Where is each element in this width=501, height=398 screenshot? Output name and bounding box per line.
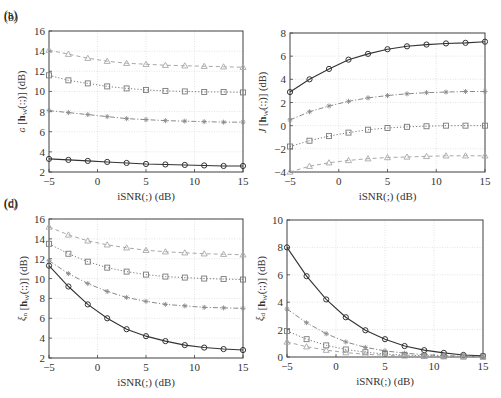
x-tick-label: 10 [429, 360, 441, 372]
star-marker [124, 295, 129, 300]
x-tick-label: 5 [385, 175, 391, 187]
y-tick-label: 6 [281, 50, 287, 62]
star-marker [444, 90, 449, 95]
y-tick-label: 6 [278, 269, 284, 281]
y-tick-label: 8 [281, 27, 287, 39]
y-tick-label: 4 [281, 73, 287, 85]
star-marker [66, 271, 71, 276]
x-tick-label: 15 [480, 175, 492, 187]
series-triangle-dashed [46, 47, 246, 69]
x-tick-label: 15 [238, 361, 250, 373]
square-marker [66, 251, 71, 256]
y-tick-label: 16 [34, 25, 46, 37]
y-tick-label: 0 [281, 120, 287, 132]
star-marker [105, 114, 110, 119]
figure: −5051015246810121416(a)iSNR(;) (dB)ɢ [hW… [0, 0, 501, 398]
y-tick-label: 14 [34, 233, 46, 245]
y-tick-label: 12 [34, 65, 45, 77]
y-tick-label: 8 [278, 241, 284, 253]
star-marker [47, 258, 52, 263]
star-marker [346, 99, 351, 104]
star-marker [304, 320, 309, 325]
star-marker [85, 281, 90, 286]
x-tick-label: 15 [238, 175, 250, 187]
star-marker [307, 109, 312, 114]
y-tick-label: 6 [40, 312, 46, 324]
x-tick-label: 0 [333, 360, 339, 372]
y-axis-label: ɢ [hW(:;)] (dB) [16, 70, 29, 132]
star-marker [221, 120, 226, 125]
x-tick-label: 10 [431, 175, 443, 187]
series-circle-solid [46, 156, 245, 168]
x-tick-label: 0 [336, 175, 342, 187]
y-tick-label: 10 [34, 273, 46, 285]
triangle-marker [182, 250, 188, 255]
y-tick-label: 6 [40, 126, 46, 138]
star-marker [163, 302, 168, 307]
x-tick-label: 0 [95, 361, 101, 373]
x-axis-label: iSNR(;) (dB) [117, 190, 175, 203]
y-tick-label: 8 [40, 106, 46, 118]
star-marker [202, 119, 207, 124]
y-tick-label: 2 [281, 97, 287, 109]
y-tick-label: 2 [40, 352, 46, 364]
panel-label: (b) [4, 10, 18, 24]
star-marker [182, 119, 187, 124]
x-axis-label: iSNR(;) (dB) [356, 375, 414, 388]
star-marker [385, 93, 390, 98]
y-axis-label: J [hW(:;)] (dB) [257, 71, 270, 133]
y-tick-label: −2 [274, 143, 286, 155]
x-axis-label: iSNR(;) (dB) [359, 190, 417, 203]
star-marker [124, 116, 129, 121]
star-marker [182, 303, 187, 308]
y-tick-label: 8 [40, 292, 46, 304]
star-marker [85, 112, 90, 117]
star-marker [241, 120, 246, 125]
x-axis-label: iSNR(;) (dB) [117, 376, 175, 389]
star-marker [363, 345, 368, 350]
y-axis-label: ξd [hW(:;)] (dB) [254, 256, 269, 321]
y-tick-label: 2 [278, 324, 284, 336]
y-tick-label: 2 [40, 166, 46, 178]
y-tick-label: 12 [34, 253, 45, 265]
star-marker [343, 339, 348, 344]
star-marker [47, 108, 52, 113]
y-tick-label: 0 [278, 351, 284, 363]
y-axis-label: ξn [hW(:;)] (dB) [16, 256, 31, 321]
star-marker [105, 289, 110, 294]
star-marker [288, 117, 293, 122]
y-tick-label: 4 [40, 146, 46, 158]
panel-label: (d) [4, 197, 18, 211]
star-marker [405, 91, 410, 96]
star-marker [66, 110, 71, 115]
star-marker [144, 117, 149, 122]
square-marker [85, 81, 90, 86]
y-tick-label: 4 [278, 296, 284, 308]
star-marker [366, 95, 371, 100]
star-marker [144, 299, 149, 304]
panel-d: −50510150246810(d)iSNR(;) (dB)ξd [hW(:;)… [4, 197, 489, 388]
x-tick-label: 10 [189, 361, 201, 373]
star-marker [221, 305, 226, 310]
triangle-marker [304, 344, 310, 349]
star-marker [324, 331, 329, 336]
star-marker [424, 90, 429, 95]
star-marker [163, 118, 168, 123]
y-tick-label: 14 [34, 45, 46, 57]
x-tick-label: 5 [382, 360, 388, 372]
x-tick-label: 5 [143, 361, 149, 373]
star-marker [483, 89, 488, 94]
square-marker [221, 89, 226, 94]
y-tick-label: 10 [272, 214, 284, 226]
x-tick-label: 15 [478, 360, 490, 372]
star-marker [241, 306, 246, 311]
x-tick-label: 5 [143, 175, 149, 187]
panel-c: −5051015246810121416(c)iSNR(;) (dB)ξn [h… [4, 196, 249, 389]
panel-a: −5051015246810121416(a)iSNR(;) (dB)ɢ [hW… [4, 8, 249, 203]
star-marker [285, 307, 290, 312]
x-tick-label: 10 [189, 175, 201, 187]
y-tick-label: 16 [34, 213, 46, 225]
star-marker [463, 89, 468, 94]
y-tick-label: −4 [274, 166, 286, 178]
square-marker [366, 127, 371, 132]
